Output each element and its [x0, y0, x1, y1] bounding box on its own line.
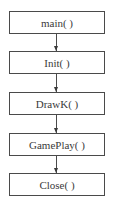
node-init-label: Init( ) — [44, 57, 69, 69]
node-drawk: DrawK( ) — [9, 92, 105, 115]
arrow-gameplay-to-close — [56, 156, 57, 173]
arrow-init-to-drawk — [56, 74, 57, 92]
node-main: main( ) — [9, 11, 105, 34]
node-init: Init( ) — [9, 51, 105, 74]
node-close-label: Close( ) — [39, 179, 74, 191]
arrow-main-to-init — [56, 34, 57, 51]
node-drawk-label: DrawK( ) — [36, 98, 78, 110]
node-gameplay-label: GamePlay( ) — [29, 139, 85, 151]
node-close: Close( ) — [9, 173, 105, 196]
arrow-drawk-to-gameplay — [56, 115, 57, 133]
node-gameplay: GamePlay( ) — [9, 133, 105, 156]
node-main-label: main( ) — [41, 17, 73, 29]
